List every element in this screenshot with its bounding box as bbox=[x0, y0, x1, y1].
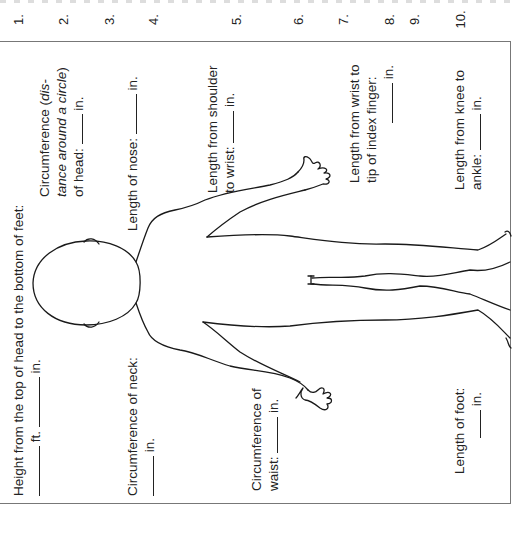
head-circumference-label: Circumference (dis- tance around a circl… bbox=[36, 67, 87, 197]
height-label: Height from the top of head to the botto… bbox=[10, 205, 44, 496]
knee-to-ankle-input[interactable] bbox=[468, 114, 481, 150]
waist-circumference-label: Circumference of waist: in. bbox=[248, 388, 282, 491]
nose-length-label: Length of nose: in. bbox=[124, 76, 141, 231]
foot-length-input[interactable] bbox=[468, 410, 481, 438]
height-ft-input[interactable] bbox=[27, 446, 40, 496]
wrist-to-finger-input[interactable] bbox=[380, 83, 393, 123]
shoulder-to-wrist-label: Length from shoulder to wrist: in. bbox=[204, 65, 238, 193]
head-circumference-input[interactable] bbox=[70, 114, 83, 144]
shoulder-to-wrist-input[interactable] bbox=[221, 111, 234, 143]
neck-circumference-label: Circumference of neck: in. bbox=[124, 357, 158, 496]
nose-length-input[interactable] bbox=[124, 94, 137, 134]
height-in-input[interactable] bbox=[27, 377, 40, 427]
knee-to-ankle-label: Length from knee to ankle: in. bbox=[451, 70, 485, 190]
waist-circumference-input[interactable] bbox=[265, 417, 278, 453]
foot-length-label: Length of foot: in. bbox=[451, 388, 485, 474]
neck-circumference-input[interactable] bbox=[141, 456, 154, 496]
wrist-to-finger-label: Length from wrist to tip of index finger… bbox=[346, 64, 397, 183]
